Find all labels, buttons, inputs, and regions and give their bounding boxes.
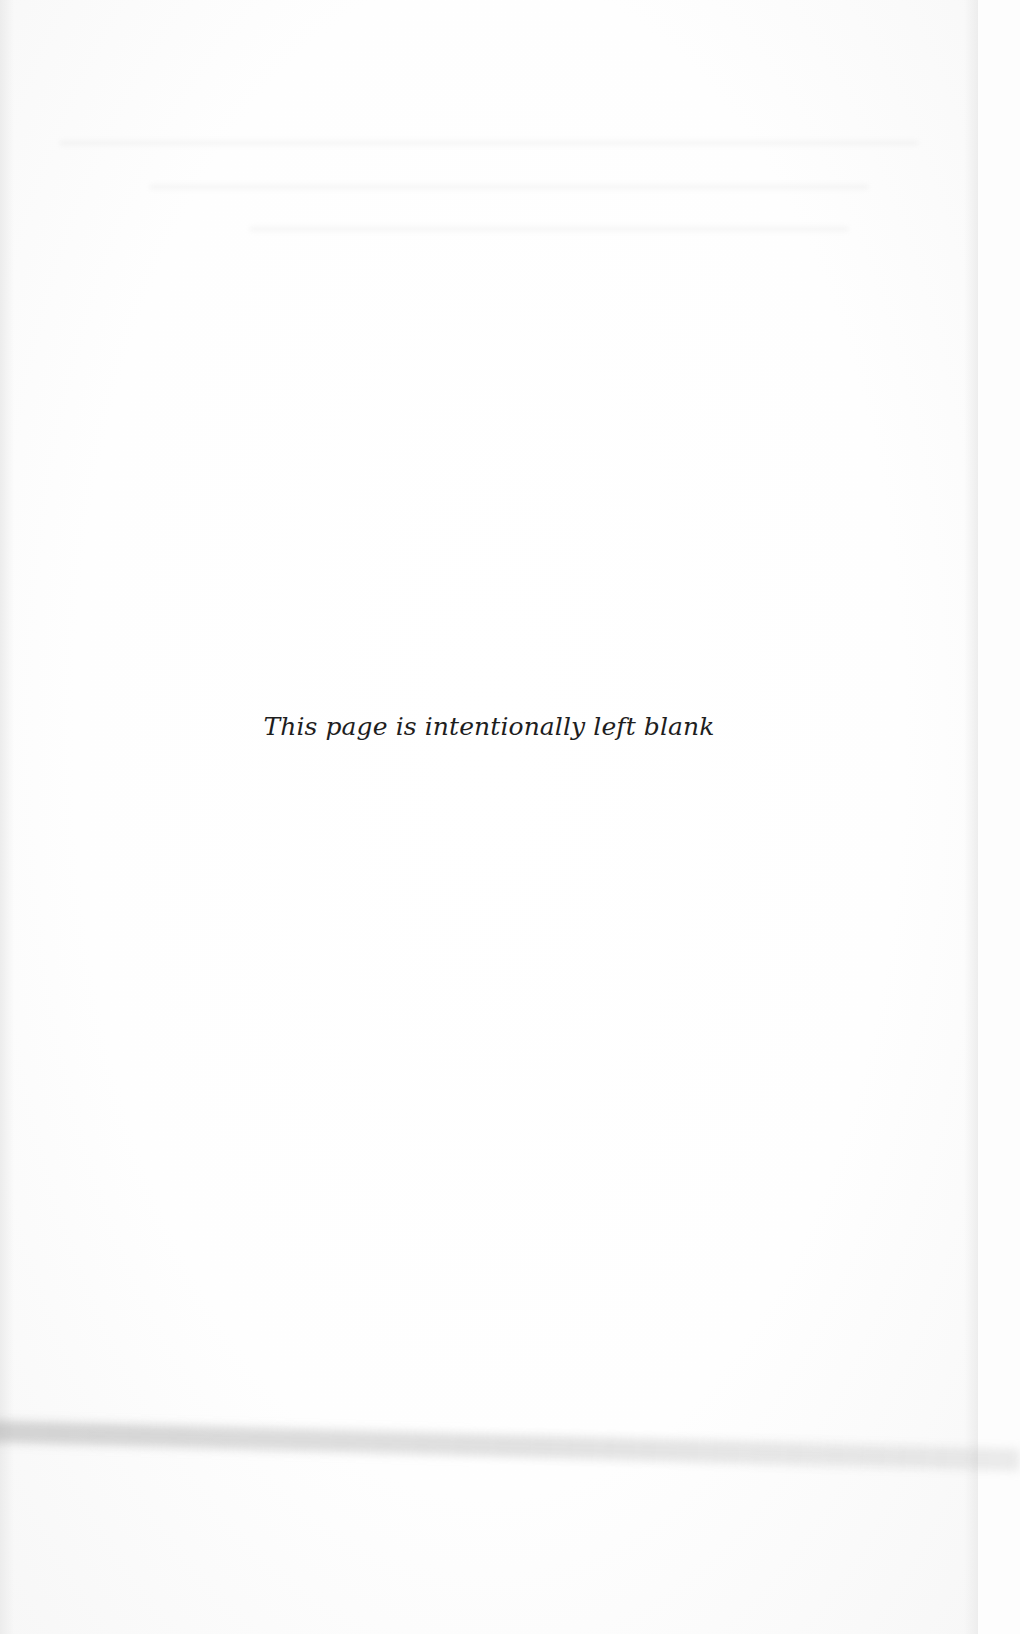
scan-edge-left	[0, 0, 14, 1634]
scan-edge-right	[964, 0, 978, 1634]
blank-page-notice: This page is intentionally left blank	[0, 712, 978, 741]
bleed-through-line	[60, 140, 918, 146]
bleed-through-line	[150, 184, 868, 190]
scan-shadow-band	[0, 1420, 1020, 1471]
bleed-through-line	[250, 226, 848, 232]
